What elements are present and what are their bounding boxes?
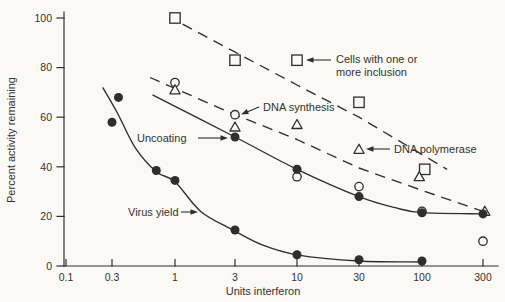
cells-with-inclusion-point: [170, 13, 180, 23]
y-axis-title: Percent activity remaining: [5, 77, 17, 203]
uncoating-point: [231, 133, 240, 142]
dna-synthesis-label: DNA synthesis: [263, 101, 335, 113]
cells-with-inclusion-marker: [354, 97, 364, 107]
dna-synthesis-point: [355, 182, 363, 190]
y-tick-label: 100: [34, 12, 52, 24]
virus-yield-marker: [171, 176, 180, 185]
cells-with-inclusion-marker-shape: [420, 164, 430, 174]
uncoating-marker: [479, 209, 488, 218]
x-tick-label: 10: [291, 271, 303, 283]
virus-yield-marker-shape: [293, 250, 302, 259]
uncoating-marker-shape: [355, 192, 364, 201]
uncoating-marker-shape: [418, 208, 427, 217]
virus-yield-marker-shape: [355, 255, 364, 264]
dna-synthesis-marker-shape: [231, 111, 239, 119]
virus-yield-marker: [418, 257, 427, 266]
cells-with-inclusion-marker-shape: [170, 13, 180, 23]
virus-yield-point: [108, 118, 117, 127]
uncoating-marker: [355, 192, 364, 201]
virus-yield-marker-shape: [108, 118, 117, 127]
interferon-chart-canvas: 0204060801000.10.3131030100300Units inte…: [0, 0, 505, 302]
y-tick-label: 80: [40, 61, 52, 73]
x-tick-label: 30: [353, 271, 365, 283]
uncoating-marker-shape: [293, 165, 302, 174]
virus-yield-marker: [114, 93, 123, 102]
dna-polymerase-label: DNA polymerase: [394, 143, 477, 155]
dna-synthesis-point: [231, 111, 239, 119]
cells-with-inclusion-marker-shape: [292, 55, 302, 65]
uncoating-point: [479, 209, 488, 218]
x-tick-label: 300: [474, 271, 492, 283]
uncoating-marker-shape: [479, 209, 488, 218]
virus-yield-marker: [231, 226, 240, 235]
uncoating-marker-shape: [231, 133, 240, 142]
virus-yield-point: [114, 93, 123, 102]
virus-yield-point: [418, 257, 427, 266]
uncoating-marker: [293, 165, 302, 174]
x-tick-label: 0.1: [59, 271, 74, 283]
uncoating-point: [418, 208, 427, 217]
virus-yield-point: [355, 255, 364, 264]
y-tick-label: 20: [40, 210, 52, 222]
virus-yield-marker-shape: [171, 176, 180, 185]
uncoating-marker: [231, 133, 240, 142]
virus-yield-marker: [293, 250, 302, 259]
cells-with-inclusion-label: Cells with one ormore inclusion: [336, 53, 418, 78]
dna-synthesis-marker: [355, 182, 363, 190]
y-tick-label: 60: [40, 111, 52, 123]
cells-with-inclusion-point: [292, 55, 302, 65]
dna-synthesis-point: [479, 237, 487, 245]
x-tick-label: 1: [172, 271, 178, 283]
virus-yield-point: [152, 166, 161, 175]
dna-synthesis-marker: [479, 237, 487, 245]
cells-with-inclusion-marker: [292, 55, 302, 65]
cells-with-inclusion-marker: [420, 164, 430, 174]
x-tick-label: 100: [413, 271, 431, 283]
x-axis-title: Units interferon: [226, 285, 301, 297]
y-tick-label: 0: [46, 260, 52, 272]
virus-yield-marker-shape: [418, 257, 427, 266]
virus-yield-marker-shape: [152, 166, 161, 175]
uncoating-marker: [418, 208, 427, 217]
uncoating-label: Uncoating: [137, 132, 187, 144]
x-tick-label: 0.3: [105, 271, 120, 283]
uncoating-point: [355, 192, 364, 201]
dna-synthesis-marker-shape: [355, 182, 363, 190]
cells-with-inclusion-point: [230, 55, 240, 65]
virus-yield-point: [293, 250, 302, 259]
cells-with-inclusion-marker-shape: [230, 55, 240, 65]
dna-synthesis-marker-shape: [479, 237, 487, 245]
cells-with-inclusion-marker: [170, 13, 180, 23]
dna-synthesis-marker: [231, 111, 239, 119]
cells-with-inclusion-point: [354, 97, 364, 107]
x-tick-label: 3: [232, 271, 238, 283]
uncoating-point: [293, 165, 302, 174]
cells-with-inclusion-marker: [230, 55, 240, 65]
interferon-dose-response-figure: 0204060801000.10.3131030100300Units inte…: [0, 0, 505, 302]
virus-yield-marker-shape: [231, 226, 240, 235]
virus-yield-marker-shape: [114, 93, 123, 102]
virus-yield-point: [171, 176, 180, 185]
cells-with-inclusion-marker-shape: [354, 97, 364, 107]
y-tick-label: 40: [40, 161, 52, 173]
cells-with-inclusion-point: [420, 164, 430, 174]
virus-yield-marker: [355, 255, 364, 264]
virus-yield-marker: [108, 118, 117, 127]
virus-yield-marker: [152, 166, 161, 175]
virus-yield-point: [231, 226, 240, 235]
virus-yield-label: Virus yield: [128, 206, 179, 218]
